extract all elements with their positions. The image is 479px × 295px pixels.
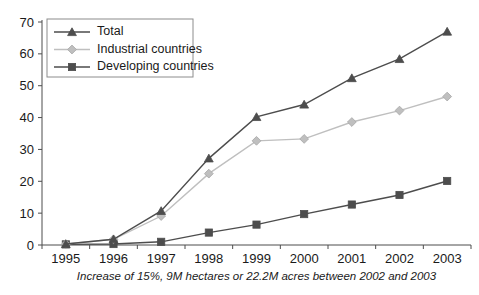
- x-tick-label: 1998: [194, 251, 223, 266]
- x-tick-label: 1995: [51, 251, 80, 266]
- data-point: [444, 177, 451, 184]
- data-point: [443, 92, 452, 101]
- y-tick-label: 40: [20, 110, 34, 125]
- x-axis-ticks: 199519961997199819992000200120022003: [42, 245, 471, 266]
- y-tick-label: 0: [27, 238, 34, 253]
- legend-label: Developing countries: [97, 59, 214, 73]
- y-tick-label: 60: [20, 46, 34, 61]
- data-point: [395, 106, 404, 115]
- x-tick-label: 1999: [242, 251, 271, 266]
- y-axis-ticks: 010203040506070: [20, 15, 42, 253]
- x-tick-label: 2003: [433, 251, 462, 266]
- data-point: [205, 229, 212, 236]
- legend-label: Total: [97, 24, 123, 38]
- data-point: [300, 135, 309, 144]
- x-tick-label: 2001: [337, 251, 366, 266]
- data-point: [252, 136, 261, 145]
- line-chart: 010203040506070 199519961997199819992000…: [0, 0, 479, 295]
- x-tick-label: 2002: [385, 251, 414, 266]
- y-tick-label: 30: [20, 142, 34, 157]
- data-point: [347, 74, 356, 82]
- y-tick-label: 10: [20, 206, 34, 221]
- data-point: [396, 191, 403, 198]
- chart-caption: Increase of 15%, 9M hectares or 22.2M ac…: [77, 270, 437, 282]
- y-tick-label: 70: [20, 15, 34, 30]
- data-point: [253, 221, 260, 228]
- data-point: [395, 55, 404, 63]
- x-tick-label: 2000: [290, 251, 319, 266]
- legend-label: Industrial countries: [97, 42, 202, 56]
- x-tick-label: 1996: [99, 251, 128, 266]
- legend-marker-square-icon: [68, 63, 75, 70]
- data-point: [348, 201, 355, 208]
- chart-legend: TotalIndustrial countriesDeveloping coun…: [47, 19, 214, 77]
- data-point: [158, 238, 165, 245]
- chart-plot-area: 010203040506070 199519961997199819992000…: [0, 0, 479, 295]
- data-point: [301, 210, 308, 217]
- data-point: [347, 118, 356, 127]
- x-tick-label: 1997: [147, 251, 176, 266]
- y-tick-label: 20: [20, 174, 34, 189]
- y-tick-label: 50: [20, 78, 34, 93]
- data-point: [300, 100, 309, 108]
- data-point: [443, 27, 452, 35]
- series-developing-countries: [62, 177, 451, 248]
